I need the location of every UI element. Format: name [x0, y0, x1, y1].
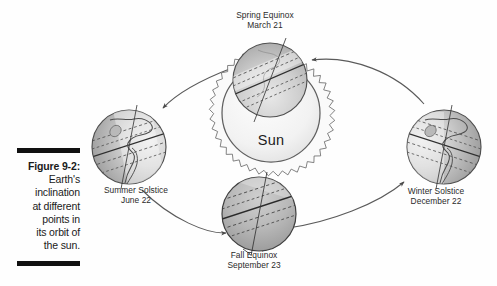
caption-line-6: the sun. — [8, 239, 80, 252]
caption-line-2: inclination — [8, 186, 80, 199]
figure-number: Figure 9-2: — [8, 160, 80, 173]
caption-line-5: its orbit of — [8, 226, 80, 239]
caption-line-4: points in — [8, 213, 80, 226]
figure-caption-block: Figure 9-2: Earth's inclination at diffe… — [8, 148, 80, 266]
label-spring-equinox: Spring Equinox March 21 — [205, 10, 325, 30]
label-spring-equinox-date: March 21 — [205, 20, 325, 30]
label-summer-solstice-title: Summer Solstice — [82, 185, 190, 195]
figure-page: Sun Spring Equinox March 21 Summer Solst… — [0, 0, 497, 286]
figure-caption-text: Figure 9-2: Earth's inclination at diffe… — [8, 160, 80, 252]
orbit-arc-winter-to-spring — [312, 59, 424, 104]
caption-rule-bottom — [17, 261, 80, 266]
label-winter-solstice-title: Winter Solstice — [380, 186, 492, 196]
label-spring-equinox-title: Spring Equinox — [205, 10, 325, 20]
label-fall-equinox-title: Fall Equinox — [195, 250, 313, 260]
caption-line-1: Earth's — [8, 173, 80, 186]
label-winter-solstice-date: December 22 — [380, 196, 492, 206]
caption-rule-top — [17, 148, 80, 153]
globe-winter-solstice — [407, 105, 481, 189]
label-summer-solstice-date: June 22 — [82, 195, 190, 205]
label-summer-solstice: Summer Solstice June 22 — [82, 185, 190, 205]
label-fall-equinox: Fall Equinox September 23 — [195, 250, 313, 270]
globe-summer-solstice — [92, 105, 166, 189]
caption-line-3: at different — [8, 200, 80, 213]
sun-label: Sun — [236, 132, 306, 148]
label-winter-solstice: Winter Solstice December 22 — [380, 186, 492, 206]
globe-fall-equinox — [222, 172, 296, 256]
label-fall-equinox-date: September 23 — [195, 260, 313, 270]
